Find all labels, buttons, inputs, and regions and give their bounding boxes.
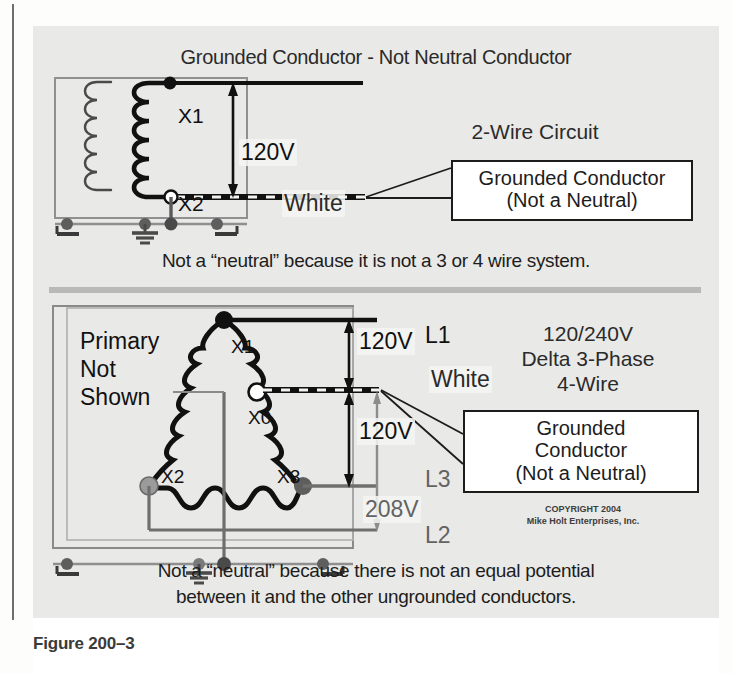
bottom-coil-x0-label: X0 <box>246 407 273 429</box>
bottom-system-line2: Delta 3-Phase <box>473 347 703 372</box>
bottom-callout-box: Grounded Conductor (Not a Neutral) <box>463 410 699 493</box>
bottom-voltage-upper: 120V <box>357 328 415 355</box>
figure-page: Grounded Conductor - Not Neutral Conduct… <box>0 0 733 674</box>
bottom-system-line3: 4-Wire <box>473 372 703 397</box>
top-system-label: 2-Wire Circuit <box>425 120 645 145</box>
bottom-callout-line1: Grounded <box>475 417 687 439</box>
bottom-diagram-footer-line1: Not a “neutral” because there is not an … <box>33 560 719 582</box>
primary-note-line2: Not <box>78 356 118 383</box>
bottom-callout-line3: (Not a Neutral) <box>475 462 687 484</box>
bottom-voltage-lower: 120V <box>357 418 415 445</box>
top-callout-line1: Grounded Conductor <box>463 167 681 189</box>
top-coil-x2-label: X2 <box>176 192 206 216</box>
top-white-conductor-label: White <box>282 190 345 217</box>
top-diagram-footer: Not a “neutral” because it is not a 3 or… <box>33 250 719 272</box>
caption-area <box>33 618 719 674</box>
line-label-l3: L3 <box>423 466 453 493</box>
bottom-coil-x2-label: X2 <box>159 466 186 488</box>
primary-note-line3: Shown <box>78 384 152 411</box>
top-diagram-svg <box>33 26 719 286</box>
line-label-l1: L1 <box>423 322 453 349</box>
copyright-line2: Mike Holt Enterprises, Inc. <box>473 516 693 528</box>
bottom-coil-x3-label: X3 <box>275 466 302 488</box>
section-divider <box>49 287 701 293</box>
bottom-system-label: 120/240V Delta 3-Phase 4-Wire <box>473 322 703 396</box>
bottom-callout-line2: Conductor <box>475 439 687 461</box>
figure-artwork-panel: Grounded Conductor - Not Neutral Conduct… <box>33 26 719 618</box>
figure-number-caption: Figure 200–3 <box>33 634 135 654</box>
bottom-voltage-high-leg: 208V <box>363 496 421 523</box>
primary-note-line1: Primary <box>78 328 161 355</box>
copyright-line1: COPYRIGHT 2004 <box>473 504 693 516</box>
top-callout-box: Grounded Conductor (Not a Neutral) <box>451 160 693 221</box>
bottom-system-line1: 120/240V <box>473 322 703 347</box>
top-coil-x1-label: X1 <box>176 104 206 128</box>
page-margin-rule <box>12 4 14 620</box>
bottom-diagram-footer-line2: between it and the other ungrounded cond… <box>33 586 719 608</box>
top-callout-line2: (Not a Neutral) <box>463 189 681 211</box>
line-label-l2: L2 <box>423 522 453 549</box>
copyright-notice: COPYRIGHT 2004 Mike Holt Enterprises, In… <box>473 504 693 527</box>
top-voltage-120v: 120V <box>239 139 297 166</box>
bottom-coil-x1-label: X1 <box>229 336 256 358</box>
